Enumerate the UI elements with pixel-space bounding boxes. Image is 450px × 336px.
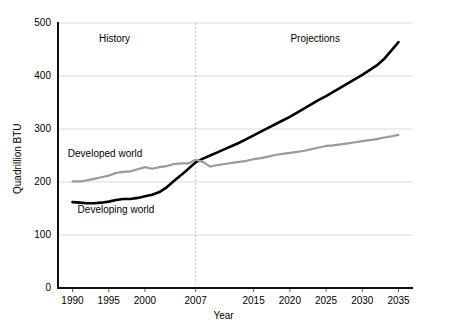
y-tick-label: 100 xyxy=(19,229,51,240)
chart-container: 0100200300400500 19901995200020072015202… xyxy=(0,0,450,336)
series-label-developed-world: Developed world xyxy=(60,148,150,159)
y-tick-label: 300 xyxy=(19,123,51,134)
x-tick-label: 2035 xyxy=(379,295,419,306)
x-tick-label: 2020 xyxy=(270,295,310,306)
x-tick-label: 2007 xyxy=(176,295,216,306)
y-tick-label: 400 xyxy=(19,70,51,81)
chart-plot-area xyxy=(0,0,450,336)
x-tick-label: 2000 xyxy=(125,295,165,306)
region-label-history: History xyxy=(70,33,160,44)
x-tick-label: 1990 xyxy=(52,295,92,306)
x-axis-title: Year xyxy=(194,310,254,321)
x-tick-label: 2030 xyxy=(342,295,382,306)
y-tick-label: 0 xyxy=(19,282,51,293)
region-label-projections: Projections xyxy=(270,33,360,44)
y-axis-title: Quadrillion BTU xyxy=(12,123,23,194)
y-tick-label: 200 xyxy=(19,176,51,187)
x-tick-label: 2015 xyxy=(234,295,274,306)
series-label-developing-world: Developing world xyxy=(71,204,161,215)
y-tick-label: 500 xyxy=(19,17,51,28)
data-series-group xyxy=(72,42,398,203)
series-line-developing-world xyxy=(72,42,398,203)
x-tick-label: 2025 xyxy=(306,295,346,306)
x-tick-label: 1995 xyxy=(89,295,129,306)
